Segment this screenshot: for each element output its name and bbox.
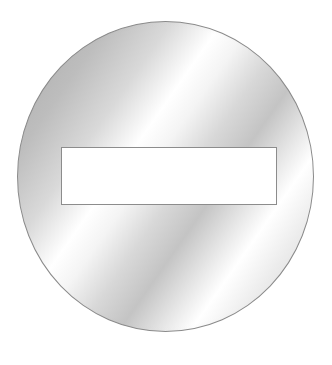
no-entry-bar [61, 147, 277, 205]
no-entry-sign [17, 21, 314, 332]
